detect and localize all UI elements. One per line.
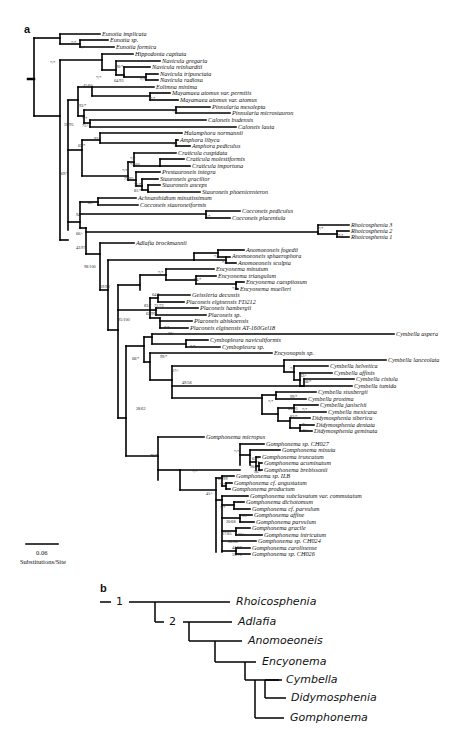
taxon-adlafia: Adlafia: [238, 616, 276, 627]
phylogenetic-tree-b: [0, 0, 468, 741]
taxon-cymbella: Cymbella: [286, 674, 338, 685]
taxon-rhoicosphenia: Rhoicosphenia: [236, 596, 316, 607]
taxon-gomphonema: Gomphonema: [290, 712, 368, 723]
node-label-1: 1: [116, 596, 123, 607]
taxon-encyonema: Encyonema: [262, 656, 326, 667]
node-label-2: 2: [169, 616, 176, 627]
taxon-didymosphenia: Didymosphenia: [291, 692, 377, 703]
figure: a: [0, 0, 468, 741]
taxon-anomoeoneis: Anomoeoneis: [248, 635, 323, 646]
